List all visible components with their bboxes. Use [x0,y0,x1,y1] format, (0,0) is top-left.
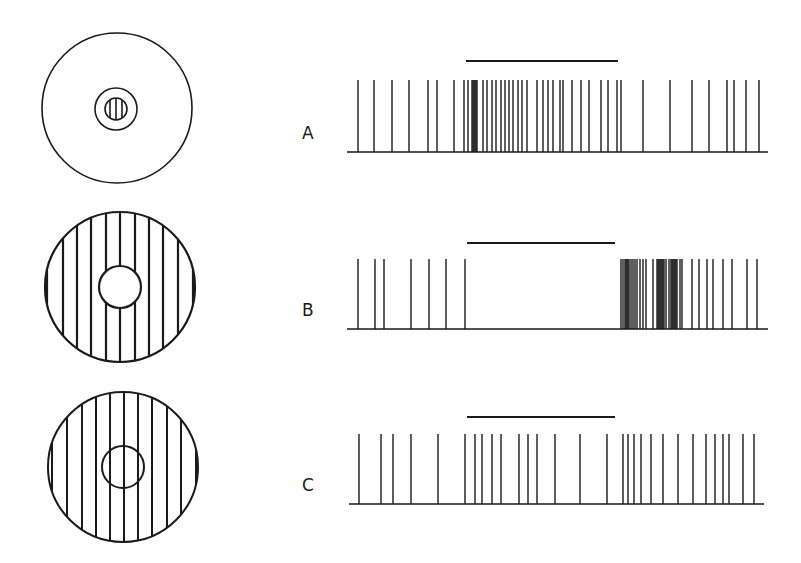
spike-traces [347,61,768,504]
stimulus-a-icon [42,33,192,183]
row-label-a: A [302,123,314,143]
row-label-c: C [302,475,314,495]
spike-train-b [347,243,768,329]
row-label-b: B [302,300,314,320]
spike-train-a [347,61,768,152]
spike-train-c [349,417,764,504]
figure-canvas [0,0,801,563]
stimulus-c-icon [48,380,198,560]
stimulus-b-icon [45,200,195,380]
